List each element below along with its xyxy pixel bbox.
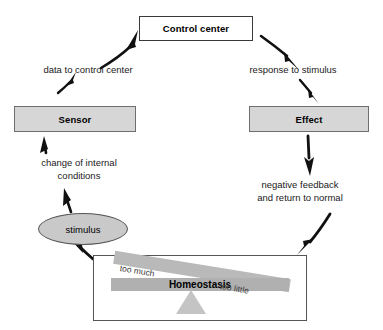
homeostasis-feedback-diagram: Control center Sensor Effect stimulus da…: [0, 0, 383, 330]
edge-label-data-to-control-center: data to control center: [8, 64, 168, 77]
edge-label-change-of-internal-conditions: change of internal conditions: [4, 157, 154, 182]
arrow-feedback-to-homeostasis: [297, 214, 330, 255]
arrow-change-to-sensor: [40, 136, 48, 153]
edge-label-negative-feedback: negative feedback and return to normal: [221, 179, 379, 204]
node-effect[interactable]: Effect: [249, 106, 369, 132]
node-control-center[interactable]: Control center: [139, 16, 253, 41]
node-stimulus[interactable]: stimulus: [38, 213, 128, 245]
balance-fulcrum-triangle-icon: [176, 290, 206, 314]
edge-label-response-to-stimulus: response to stimulus: [213, 64, 373, 77]
arrow-sensor-to-control-center: [101, 30, 138, 68]
arrow-stimulus-to-change: [63, 188, 71, 212]
node-sensor[interactable]: Sensor: [14, 106, 136, 132]
homeostasis-balance-panel: too much Homeostasis too little: [93, 255, 307, 321]
arrow-effect-to-feedback: [304, 136, 314, 176]
arrow-out-of-response-label: [300, 80, 319, 104]
